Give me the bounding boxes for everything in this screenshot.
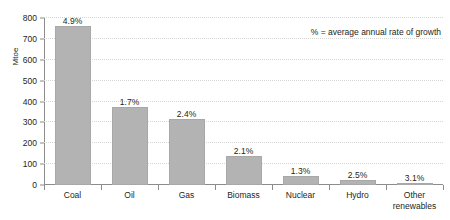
x-tick-label: Coal — [44, 190, 101, 211]
bar-value-label: 2.5% — [348, 170, 367, 180]
y-tick-label: 0 — [32, 180, 37, 190]
x-axis-labels: CoalOilGasBiomassNuclearHydroOtherrenewa… — [44, 190, 443, 211]
bar-slot: 3.1% — [386, 18, 443, 185]
bar[interactable]: 2.4% — [169, 119, 205, 185]
bar-slot: 4.9% — [44, 18, 101, 185]
x-tick-label: Oil — [101, 190, 158, 211]
y-tick-label: 800 — [23, 13, 37, 23]
bar-value-label: 1.3% — [291, 166, 310, 176]
bar-value-label: 4.9% — [63, 16, 82, 26]
plot-area: 0100200300400500600700800 4.9%1.7%2.4%2.… — [44, 18, 443, 185]
bar[interactable]: 1.3% — [283, 176, 319, 185]
y-tick-label: 300 — [23, 117, 37, 127]
bar[interactable]: 1.7% — [112, 107, 148, 185]
y-tick-label: 100 — [23, 159, 37, 169]
bar-slot: 2.1% — [215, 18, 272, 185]
x-tick-label: Biomass — [215, 190, 272, 211]
y-tick-label: 400 — [23, 97, 37, 107]
bar[interactable]: 2.5% — [340, 180, 376, 185]
bar-value-label: 1.7% — [120, 97, 139, 107]
bar-slot: 1.7% — [101, 18, 158, 185]
y-tick-label: 500 — [23, 76, 37, 86]
bar-slot: 1.3% — [272, 18, 329, 185]
y-axis-title: Mtoe — [11, 29, 20, 85]
bar[interactable]: 2.1% — [226, 156, 262, 185]
x-tick-label: Otherrenewables — [386, 190, 443, 211]
y-tick-label: 700 — [23, 34, 37, 44]
y-tick-label: 600 — [23, 55, 37, 65]
bar-value-label: 3.1% — [405, 173, 424, 183]
bar-slot: 2.4% — [158, 18, 215, 185]
bar-value-label: 2.4% — [177, 109, 196, 119]
bars-layer: 4.9%1.7%2.4%2.1%1.3%2.5%3.1% — [44, 18, 443, 185]
x-tick-label: Gas — [158, 190, 215, 211]
bar-slot: 2.5% — [329, 18, 386, 185]
y-tick-label: 200 — [23, 138, 37, 148]
bar-value-label: 2.1% — [234, 146, 253, 156]
x-axis-separator — [443, 185, 444, 190]
x-tick-label: Nuclear — [272, 190, 329, 211]
bar[interactable]: 4.9% — [55, 26, 91, 185]
chart-figure: Global primary energy demand by fuel, 20… — [0, 0, 450, 220]
bar[interactable]: 3.1% — [397, 183, 433, 185]
x-tick-label: Hydro — [329, 190, 386, 211]
